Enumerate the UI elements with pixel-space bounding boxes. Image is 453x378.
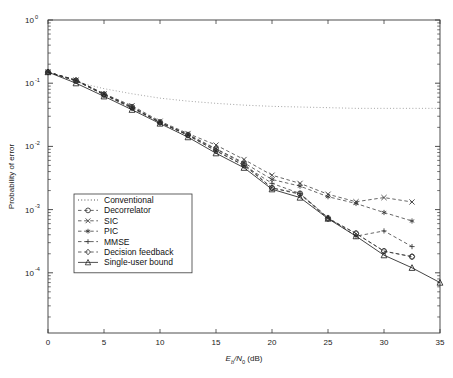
x-tick-label: 30 [380, 338, 389, 347]
svg-text:10: 10 [25, 206, 34, 215]
series-line [48, 72, 412, 202]
svg-text:10: 10 [25, 79, 34, 88]
svg-text:-3: -3 [35, 203, 40, 209]
tick-labels: 0510152025303510010-110-210-310-4 [25, 14, 445, 348]
series-line [48, 72, 440, 108]
svg-text:-4: -4 [35, 266, 40, 272]
svg-text:10: 10 [25, 269, 34, 278]
y-tick-label: 10-1 [25, 77, 40, 89]
legend-label: Single-user bound [104, 257, 173, 267]
plot-frame [48, 20, 440, 333]
y-axis-label: Probability of error [7, 143, 16, 209]
svg-text:10: 10 [25, 16, 34, 25]
series-sic [45, 69, 414, 204]
y-tick-label: 10-4 [25, 266, 40, 278]
x-axis-label: Eb/N0 (dB) [226, 354, 263, 365]
legend-label: SIC [104, 216, 118, 226]
x-tick-label: 10 [156, 338, 165, 347]
chart-svg: 0510152025303510010-110-210-310-4 Conven… [0, 0, 453, 378]
legend-label: Conventional [104, 195, 154, 205]
svg-text:Eb/N0 (dB): Eb/N0 (dB) [226, 354, 263, 365]
x-tick-label: 5 [102, 338, 107, 347]
legend-label: Decision feedback [104, 247, 174, 257]
svg-text:-1: -1 [35, 77, 40, 83]
x-tick-label: 25 [324, 338, 333, 347]
axis-ticks [48, 20, 440, 333]
x-tick-label: 35 [436, 338, 445, 347]
chart-legend[interactable]: ConventionalDecorrelatorSICPICMMSEDecisi… [74, 194, 192, 273]
legend-label: PIC [104, 226, 118, 236]
y-tick-label: 100 [25, 14, 38, 26]
x-tick-label: 15 [212, 338, 221, 347]
svg-text:10: 10 [25, 142, 34, 151]
series-conventional [48, 72, 440, 108]
y-tick-label: 10-2 [25, 140, 40, 152]
y-tick-label: 10-3 [25, 203, 40, 215]
x-tick-label: 0 [46, 338, 51, 347]
figure-container: 0510152025303510010-110-210-310-4 Conven… [0, 0, 453, 378]
legend-label: Decorrelator [104, 205, 151, 215]
svg-text:0: 0 [35, 14, 38, 20]
legend-label: MMSE [104, 237, 130, 247]
svg-text:-2: -2 [35, 140, 40, 146]
x-tick-label: 20 [268, 338, 277, 347]
